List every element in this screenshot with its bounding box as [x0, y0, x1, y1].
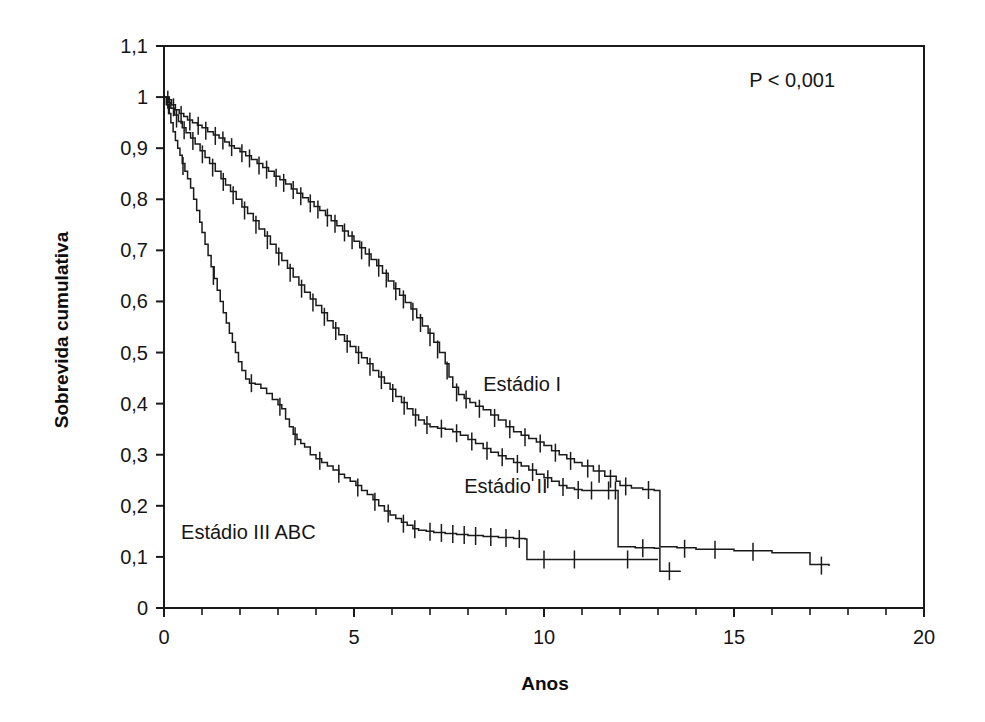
estadio-i-label: Estádio I: [483, 373, 561, 395]
y-tick-label: 1: [137, 86, 148, 108]
y-tick-label: 0,3: [120, 444, 148, 466]
y-tick-label: 0,5: [120, 342, 148, 364]
y-tick-label: 0,1: [120, 546, 148, 568]
y-tick-label: 0,7: [120, 239, 148, 261]
chart-canvas: 00,10,20,30,40,50,60,70,80,911,1 0510152…: [0, 0, 985, 722]
estadio-ii-label: Estádio II: [464, 475, 547, 497]
y-tick-label: 0,4: [120, 393, 148, 415]
estadio-iii-label: Estádio III ABC: [181, 521, 316, 543]
y-tick-label: 0,8: [120, 188, 148, 210]
x-tick-label: 5: [348, 626, 359, 648]
x-tick-label: 20: [913, 626, 935, 648]
x-tick-label: 10: [533, 626, 555, 648]
kaplan-meier-survival-chart: 00,10,20,30,40,50,60,70,80,911,1 0510152…: [0, 0, 985, 722]
y-tick-label: 0,6: [120, 290, 148, 312]
y-tick-label: 0: [137, 597, 148, 619]
y-axis-title: Sobrevida cumulativa: [51, 231, 72, 428]
p-value: P < 0,001: [749, 69, 835, 91]
x-axis-title: Anos: [521, 673, 569, 694]
y-tick-label: 0,2: [120, 495, 148, 517]
y-tick-label: 0,9: [120, 137, 148, 159]
x-tick-label: 0: [158, 626, 169, 648]
y-tick-label: 1,1: [120, 35, 148, 57]
x-tick-label: 15: [723, 626, 745, 648]
